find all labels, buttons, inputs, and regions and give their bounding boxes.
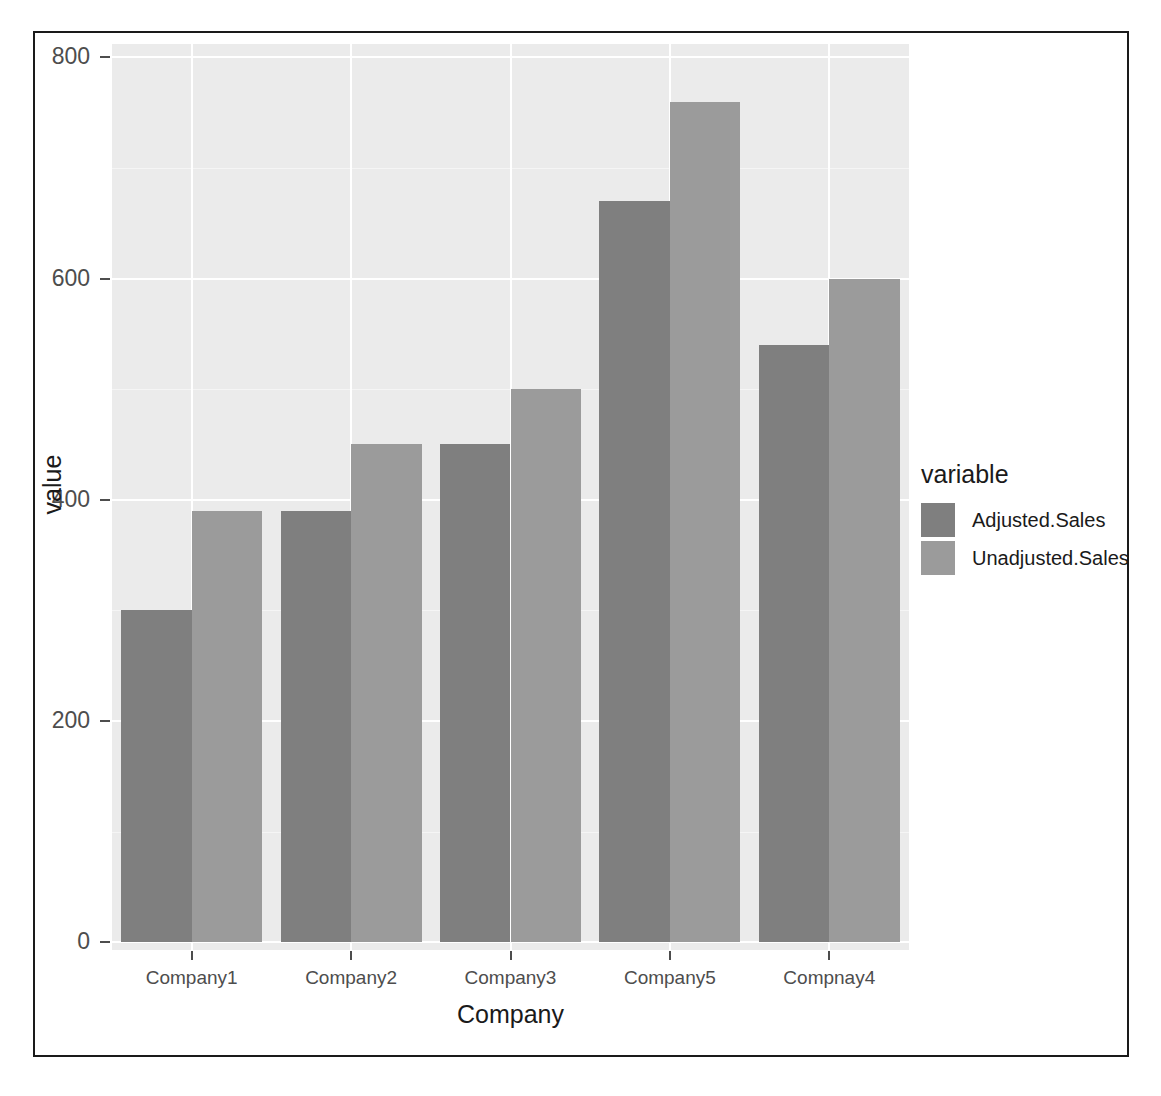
x-tick-label-Company2: Company2: [261, 968, 441, 987]
x-tick-label-Company3: Company3: [421, 968, 601, 987]
y-tick-mark-0: [100, 941, 110, 943]
x-tick-label-Compnay4: Compnay4: [739, 968, 919, 987]
bar-Company1-Adjusted.Sales: [121, 610, 192, 942]
bar-Company3-Adjusted.Sales: [440, 444, 511, 942]
chart-plot-area: 0200400600800 Company1Company2Company3Co…: [0, 0, 1161, 1096]
chart-panel: [112, 44, 909, 950]
x-tick-mark-Company1: [191, 951, 193, 960]
chart-legend: variable Adjusted.SalesUnadjusted.Sales: [921, 462, 1129, 577]
bar-Compnay4-Adjusted.Sales: [759, 345, 830, 942]
y-tick-mark-200: [100, 720, 110, 722]
x-tick-mark-Compnay4: [828, 951, 830, 960]
legend-swatch-Unadjusted.Sales: [921, 541, 955, 575]
y-axis-title: value: [38, 425, 67, 545]
x-axis-title: Company: [112, 1000, 909, 1029]
bar-Company3-Unadjusted.Sales: [511, 389, 582, 942]
y-tick-mark-800: [100, 56, 110, 58]
y-tick-label-0: 0: [20, 930, 90, 953]
x-tick-mark-Company2: [350, 951, 352, 960]
legend-item-Unadjusted.Sales: Unadjusted.Sales: [921, 539, 1129, 577]
legend-title: variable: [921, 462, 1129, 487]
legend-label-Unadjusted.Sales: Unadjusted.Sales: [972, 547, 1129, 570]
y-tick-mark-600: [100, 278, 110, 280]
x-tick-label-Company5: Company5: [580, 968, 760, 987]
bar-Company2-Unadjusted.Sales: [351, 444, 422, 942]
y-tick-label-200: 200: [20, 709, 90, 732]
bar-Company5-Adjusted.Sales: [599, 201, 670, 942]
bar-Company2-Adjusted.Sales: [281, 511, 352, 942]
bar-Company1-Unadjusted.Sales: [192, 511, 263, 942]
legend-label-Adjusted.Sales: Adjusted.Sales: [972, 509, 1105, 532]
y-tick-label-600: 600: [20, 267, 90, 290]
legend-swatch-Adjusted.Sales: [921, 503, 955, 537]
legend-item-Adjusted.Sales: Adjusted.Sales: [921, 501, 1129, 539]
x-tick-mark-Company5: [669, 951, 671, 960]
bar-Company5-Unadjusted.Sales: [670, 102, 741, 943]
y-tick-mark-400: [100, 499, 110, 501]
x-tick-label-Company1: Company1: [102, 968, 282, 987]
x-tick-mark-Company3: [510, 951, 512, 960]
y-tick-label-800: 800: [20, 45, 90, 68]
legend-entries: Adjusted.SalesUnadjusted.Sales: [921, 501, 1129, 577]
bar-Compnay4-Unadjusted.Sales: [829, 279, 900, 943]
